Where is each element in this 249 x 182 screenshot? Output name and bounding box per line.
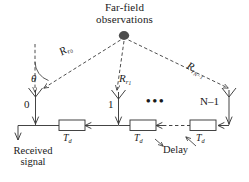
element-label-N-1: N–1: [200, 96, 219, 108]
ray-line-0: [44, 40, 121, 88]
delay-label-0-sub: d: [69, 137, 72, 144]
output-label: Received signal: [2, 145, 64, 167]
ray-label-1: Rr1: [119, 73, 131, 85]
delay-label-2-sub: d: [202, 137, 205, 144]
theta-arc: [35, 62, 49, 81]
page-title: Far-field observations: [0, 2, 249, 25]
far-field-array-diagram: Far-field observations Rr0 Rr1 RrN−1 θ 0…: [0, 0, 249, 182]
delay-block-2: [190, 120, 216, 131]
delay-callout-label: Delay: [163, 144, 188, 155]
antenna-element-0: [29, 88, 43, 125]
output-label-line-2: signal: [2, 156, 64, 167]
output-label-line-1: Received: [2, 145, 64, 156]
element-label-0: 0: [24, 99, 30, 111]
title-line-2: observations: [0, 14, 249, 26]
ray-line-N-1: [129, 40, 229, 88]
delay-label-1-sub: d: [140, 137, 143, 144]
antenna-element-N-1: [222, 88, 236, 125]
delay-label-2: Td: [196, 133, 205, 144]
delay-label-1: Td: [134, 133, 143, 144]
delay-block-1: [130, 120, 156, 131]
title-line-1: Far-field: [0, 2, 249, 14]
antenna-element-1: [112, 90, 126, 125]
elements-ellipsis: •••: [146, 94, 166, 108]
ray-label-1-main: R: [119, 72, 126, 84]
angle-theta-label: θ: [31, 73, 36, 85]
ray-label-1-subsub: 1: [128, 80, 131, 86]
far-field-source-dot: [119, 31, 129, 40]
delay-label-0: Td: [63, 133, 72, 144]
delay-block-0: [59, 120, 85, 131]
element-label-1: 1: [108, 99, 114, 111]
